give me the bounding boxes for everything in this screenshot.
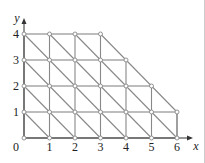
- lattice-node: [73, 58, 77, 62]
- x-tick-label: 2: [72, 140, 78, 154]
- lattice-node: [73, 32, 77, 36]
- lattice-node: [73, 110, 77, 114]
- lattice-node: [124, 110, 128, 114]
- diagonal-edge: [101, 34, 127, 60]
- lattice-node: [48, 58, 52, 62]
- lattice-node: [22, 136, 26, 140]
- x-axis-arrow-icon: [187, 136, 193, 141]
- lattice-graph: 12345612340xy: [0, 0, 205, 163]
- x-tick-label: 6: [174, 140, 180, 154]
- diagonal-edge: [152, 112, 178, 138]
- diagonal-edge: [126, 86, 152, 112]
- lattice-node: [124, 58, 128, 62]
- diagonal-edge: [152, 86, 178, 112]
- lattice-node: [22, 84, 26, 88]
- lattice-node: [48, 84, 52, 88]
- x-tick-label: 5: [149, 140, 155, 154]
- lattice-node: [99, 32, 103, 36]
- diagonal-edge: [126, 112, 152, 138]
- x-tick-label: 3: [98, 140, 104, 154]
- y-tick-label: 2: [13, 79, 19, 93]
- lattice-node: [99, 110, 103, 114]
- y-tick-label: 4: [13, 27, 19, 41]
- diagonal-edge: [75, 60, 101, 86]
- lattice-node: [99, 58, 103, 62]
- lattice-node: [22, 58, 26, 62]
- diagonal-edge: [24, 112, 50, 138]
- origin-label: 0: [13, 140, 19, 154]
- diagonal-edge: [50, 34, 76, 60]
- diagonal-edge: [101, 112, 127, 138]
- lattice-node: [48, 32, 52, 36]
- y-tick-label: 1: [13, 105, 19, 119]
- lattice-node: [22, 32, 26, 36]
- y-tick-label: 3: [13, 53, 19, 67]
- lattice-node: [48, 110, 52, 114]
- diagonal-edge: [24, 86, 50, 112]
- diagonal-edge: [24, 60, 50, 86]
- y-axis-label: y: [13, 11, 20, 25]
- lattice-node: [73, 84, 77, 88]
- x-tick-label: 1: [47, 140, 53, 154]
- y-axis-arrow-icon: [22, 18, 27, 24]
- frame-border: [204, 0, 205, 163]
- diagonal-edge: [75, 86, 101, 112]
- lattice-node: [124, 84, 128, 88]
- diagonal-edge: [126, 60, 152, 86]
- lattice-node: [175, 110, 179, 114]
- lattice-diagram: 12345612340xy: [0, 0, 205, 163]
- diagonal-edge: [101, 86, 127, 112]
- diagonal-edge: [50, 86, 76, 112]
- diagonal-edge: [50, 60, 76, 86]
- diagonal-edge: [50, 112, 76, 138]
- diagonal-edge: [75, 112, 101, 138]
- x-axis-label: x: [192, 139, 199, 153]
- lattice-node: [22, 110, 26, 114]
- lattice-node: [150, 110, 154, 114]
- lattice-node: [150, 84, 154, 88]
- diagonal-edge: [75, 34, 101, 60]
- lattice-node: [99, 84, 103, 88]
- x-tick-label: 4: [123, 140, 129, 154]
- diagonal-edge: [101, 60, 127, 86]
- diagonal-edge: [24, 34, 50, 60]
